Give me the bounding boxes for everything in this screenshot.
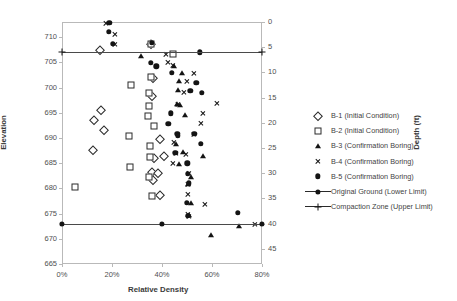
legend-line-sample bbox=[305, 191, 331, 192]
reference-line bbox=[62, 52, 262, 53]
legend-key-plus-icon bbox=[305, 200, 331, 214]
y-tick-label-right: 30 bbox=[268, 168, 292, 177]
x-axis-title: Relative Density bbox=[128, 285, 188, 294]
x-tick-label: 80% bbox=[247, 270, 277, 279]
legend-item[interactable]: B-2 (Initial Condition) bbox=[305, 123, 455, 138]
y-tick-mark-left bbox=[59, 239, 62, 240]
legend-marker-filled-triangle-icon bbox=[315, 143, 321, 148]
y-tick-label-left: 680 bbox=[29, 183, 57, 192]
y-tick-label-left: 665 bbox=[29, 259, 57, 268]
y-tick-label-right: 45 bbox=[268, 244, 292, 253]
x-tick-label: 40% bbox=[147, 270, 177, 279]
legend-marker-x-cross-icon bbox=[315, 158, 321, 164]
y-tick-mark-right bbox=[262, 123, 265, 124]
y-tick-mark-left bbox=[59, 188, 62, 189]
legend-item[interactable]: B-5 (Confirmation Boring) bbox=[305, 169, 455, 184]
y-tick-mark-right bbox=[262, 72, 265, 73]
chart-container: Elevation Depth (ft) Relative Density 66… bbox=[0, 0, 457, 301]
legend-item[interactable]: B-1 (Initial Condition) bbox=[305, 108, 455, 123]
y-tick-label-left: 685 bbox=[29, 158, 57, 167]
y-tick-label-right: 20 bbox=[268, 118, 292, 127]
y-tick-mark-right bbox=[262, 249, 265, 250]
y-tick-mark-right bbox=[262, 198, 265, 199]
legend-label: Original Ground (Lower Limit) bbox=[331, 187, 427, 196]
y-tick-mark-right bbox=[262, 224, 265, 225]
y-tick-mark-left bbox=[59, 138, 62, 139]
legend-label: B-4 (Confirmation Boring) bbox=[331, 157, 414, 166]
legend-item[interactable]: B-3 (Confirmation Boring) bbox=[305, 138, 455, 153]
legend-marker-open-diamond-icon bbox=[313, 111, 322, 120]
y-tick-label-right: 25 bbox=[268, 143, 292, 152]
legend-label: Compaction Zone (Upper Limit) bbox=[331, 202, 433, 211]
y-tick-mark-left bbox=[59, 37, 62, 38]
y-tick-label-right: 0 bbox=[268, 17, 292, 26]
legend-item[interactable]: Original Ground (Lower Limit) bbox=[305, 184, 455, 199]
x-tick-mark bbox=[162, 264, 163, 267]
x-tick-mark bbox=[112, 264, 113, 267]
x-tick-mark bbox=[262, 264, 263, 267]
legend-line-sample bbox=[305, 206, 331, 207]
y-tick-label-left: 670 bbox=[29, 234, 57, 243]
y-tick-label-left: 690 bbox=[29, 133, 57, 142]
y-tick-label-right: 5 bbox=[268, 42, 292, 51]
y-tick-mark-right bbox=[262, 98, 265, 99]
y-tick-mark-right bbox=[262, 173, 265, 174]
y-tick-mark-left bbox=[59, 163, 62, 164]
legend-item[interactable]: Compaction Zone (Upper Limit) bbox=[305, 199, 455, 214]
x-tick-mark bbox=[62, 264, 63, 267]
y-tick-label-left: 675 bbox=[29, 209, 57, 218]
x-tick-label: 60% bbox=[197, 270, 227, 279]
y-tick-mark-left bbox=[59, 62, 62, 63]
legend-marker-filled-circle-icon bbox=[315, 174, 320, 179]
legend-marker-open-square-icon bbox=[315, 127, 322, 134]
y-axis-title-left: Elevation bbox=[0, 115, 8, 150]
y-tick-label-left: 695 bbox=[29, 108, 57, 117]
x-tick-label: 0% bbox=[47, 270, 77, 279]
legend-label: B-5 (Confirmation Boring) bbox=[331, 172, 414, 181]
legend-key-open-square-icon bbox=[305, 124, 331, 138]
y-tick-label-right: 35 bbox=[268, 193, 292, 202]
chart-legend: B-1 (Initial Condition)B-2 (Initial Cond… bbox=[305, 108, 455, 214]
legend-key-filled-circle-icon bbox=[305, 169, 331, 183]
legend-key-x-cross-icon bbox=[305, 154, 331, 168]
y-tick-label-right: 10 bbox=[268, 67, 292, 76]
legend-label: B-2 (Initial Condition) bbox=[331, 126, 399, 135]
y-tick-mark-right bbox=[262, 22, 265, 23]
plot-area bbox=[62, 22, 262, 264]
x-tick-mark bbox=[212, 264, 213, 267]
legend-label: B-3 (Confirmation Boring) bbox=[331, 141, 414, 150]
legend-key-open-diamond-icon bbox=[305, 109, 331, 123]
legend-key-filled-triangle-icon bbox=[305, 139, 331, 153]
y-tick-mark-left bbox=[59, 113, 62, 114]
y-tick-label-right: 40 bbox=[268, 219, 292, 228]
y-tick-mark-right bbox=[262, 148, 265, 149]
legend-key-filled-circle-icon bbox=[305, 185, 331, 199]
y-tick-label-left: 710 bbox=[29, 32, 57, 41]
legend-label: B-1 (Initial Condition) bbox=[331, 111, 399, 120]
x-tick-label: 20% bbox=[97, 270, 127, 279]
legend-item[interactable]: B-4 (Confirmation Boring) bbox=[305, 154, 455, 169]
y-tick-mark-right bbox=[262, 47, 265, 48]
y-tick-label-right: 15 bbox=[268, 93, 292, 102]
y-tick-label-left: 705 bbox=[29, 57, 57, 66]
y-tick-label-left: 700 bbox=[29, 83, 57, 92]
y-tick-mark-left bbox=[59, 88, 62, 89]
y-tick-mark-left bbox=[59, 214, 62, 215]
reference-line bbox=[62, 224, 262, 225]
